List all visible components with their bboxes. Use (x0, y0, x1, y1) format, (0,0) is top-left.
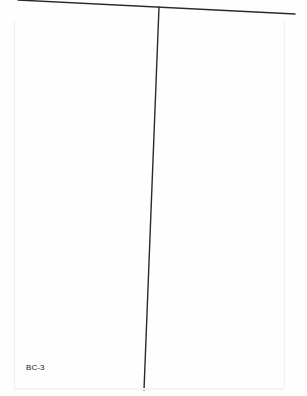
t-chart-left-column (20, 20, 140, 350)
t-chart-right-column (160, 20, 280, 380)
t-chart-vertical-line (144, 7, 159, 390)
page-code-label: BC-3 (26, 363, 45, 372)
worksheet-page: BC-3 (0, 0, 307, 396)
scan-bottom-edge (15, 388, 285, 390)
t-chart-horizontal-line (18, 0, 295, 14)
